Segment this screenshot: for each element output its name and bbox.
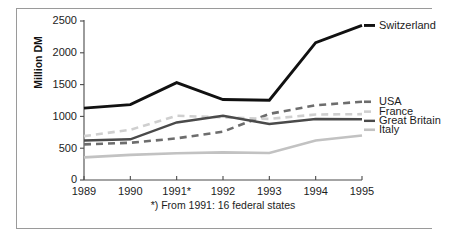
y-axis-tick-label: 1500 (53, 78, 77, 90)
x-axis: 198919901991*1992199319941995 (72, 176, 374, 197)
x-axis-tick-label: 1989 (72, 185, 96, 197)
x-axis-tick-label: 1995 (350, 185, 374, 197)
y-axis-tick-label: 2000 (53, 46, 77, 58)
series-label-switzerland: Switzerland (379, 19, 436, 31)
y-axis-tick-label: 1000 (53, 110, 77, 122)
x-axis-tick-label: 1994 (303, 185, 327, 197)
x-axis-tick-label: 1990 (118, 185, 142, 197)
y-axis-tick-label: 500 (59, 142, 77, 154)
series-labels: SwitzerlandUSAFranceGreat BritainItaly (364, 19, 441, 135)
line-chart: 05001000150020002500 198919901991*199219… (0, 0, 450, 242)
y-axis-tick-label: 0 (71, 173, 77, 185)
series-line-usa (84, 102, 362, 145)
series-line-great-britain (84, 116, 362, 141)
series-label-italy: Italy (379, 123, 400, 135)
x-axis-tick-label: 1991* (162, 185, 191, 197)
footnote-label: *) From 1991: 16 federal states (151, 199, 296, 211)
x-axis-tick-label: 1993 (257, 185, 281, 197)
y-axis-title: Million DM (32, 36, 44, 89)
x-axis-tick-label: 1992 (211, 185, 235, 197)
series-line-france (84, 114, 362, 136)
series-line-switzerland (84, 25, 362, 108)
y-axis: 05001000150020002500 (53, 14, 84, 185)
y-axis-title-label: Million DM (32, 36, 44, 89)
chart-footnote: *) From 1991: 16 federal states (151, 199, 296, 211)
series-lines (84, 25, 362, 157)
chart-figure: 05001000150020002500 198919901991*199219… (0, 0, 450, 242)
y-axis-tick-label: 2500 (53, 14, 77, 26)
